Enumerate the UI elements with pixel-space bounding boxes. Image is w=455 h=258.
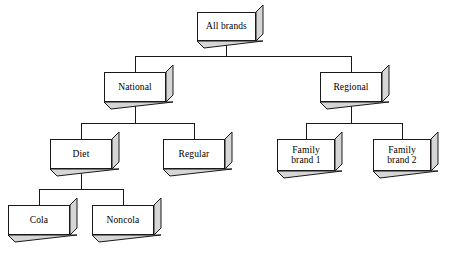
node-label: Regular bbox=[179, 149, 210, 160]
node-label: All brands bbox=[206, 21, 247, 32]
node-national[interactable]: National bbox=[104, 72, 166, 102]
node-cola[interactable]: Cola bbox=[8, 205, 70, 235]
brand-hierarchy-diagram: All brands National Regional Diet Regula… bbox=[0, 0, 455, 258]
node-face: Regional bbox=[320, 72, 382, 102]
connector-to-regional bbox=[351, 56, 352, 72]
node-extrusion-side bbox=[225, 132, 234, 171]
connector-to-national bbox=[135, 56, 136, 72]
node-extrusion-side bbox=[256, 5, 265, 43]
node-label: Family brand 1 bbox=[291, 145, 320, 166]
node-extrusion-bottom bbox=[50, 169, 121, 178]
connector-to-family-brand-2 bbox=[402, 123, 403, 139]
node-family-brand-1[interactable]: Family brand 1 bbox=[277, 139, 335, 171]
connector-root-bus bbox=[135, 56, 351, 57]
connector-to-regular bbox=[194, 123, 195, 139]
connector-to-family-brand-1 bbox=[306, 123, 307, 139]
connector-national-bus bbox=[81, 123, 194, 124]
node-extrusion-bottom bbox=[197, 41, 265, 50]
connector-diet-bus bbox=[39, 189, 123, 190]
node-label: Family brand 2 bbox=[387, 145, 416, 166]
node-label: Noncola bbox=[107, 215, 140, 226]
node-extrusion-bottom bbox=[104, 102, 175, 111]
node-face: Cola bbox=[8, 205, 70, 235]
connector-regional-bus bbox=[306, 123, 402, 124]
node-face: Diet bbox=[50, 139, 112, 169]
node-extrusion-bottom bbox=[8, 235, 79, 244]
connector-to-noncola bbox=[123, 189, 124, 205]
node-all-brands[interactable]: All brands bbox=[197, 12, 256, 41]
node-noncola[interactable]: Noncola bbox=[92, 205, 154, 235]
node-face: Regular bbox=[163, 139, 225, 169]
node-face: National bbox=[104, 72, 166, 102]
node-extrusion-side bbox=[70, 198, 79, 237]
node-label: National bbox=[118, 82, 152, 93]
node-extrusion-bottom bbox=[373, 171, 440, 180]
node-face: Family brand 2 bbox=[373, 139, 431, 171]
node-extrusion-side bbox=[382, 65, 391, 104]
node-regional[interactable]: Regional bbox=[320, 72, 382, 102]
node-label: Cola bbox=[30, 215, 48, 226]
node-extrusion-side bbox=[335, 132, 344, 173]
node-regular[interactable]: Regular bbox=[163, 139, 225, 169]
node-extrusion-bottom bbox=[320, 102, 391, 111]
node-family-brand-2[interactable]: Family brand 2 bbox=[373, 139, 431, 171]
node-extrusion-side bbox=[112, 132, 121, 171]
connector-to-diet bbox=[81, 123, 82, 139]
node-extrusion-bottom bbox=[277, 171, 344, 180]
node-face: All brands bbox=[197, 12, 256, 41]
node-label: Diet bbox=[73, 149, 90, 160]
node-extrusion-side bbox=[166, 65, 175, 104]
node-extrusion-bottom bbox=[92, 235, 163, 244]
node-label: Regional bbox=[333, 82, 368, 93]
node-extrusion-side bbox=[154, 198, 163, 237]
node-face: Family brand 1 bbox=[277, 139, 335, 171]
node-face: Noncola bbox=[92, 205, 154, 235]
node-extrusion-side bbox=[431, 132, 440, 173]
connector-to-cola bbox=[39, 189, 40, 205]
node-diet[interactable]: Diet bbox=[50, 139, 112, 169]
node-extrusion-bottom bbox=[163, 169, 234, 178]
